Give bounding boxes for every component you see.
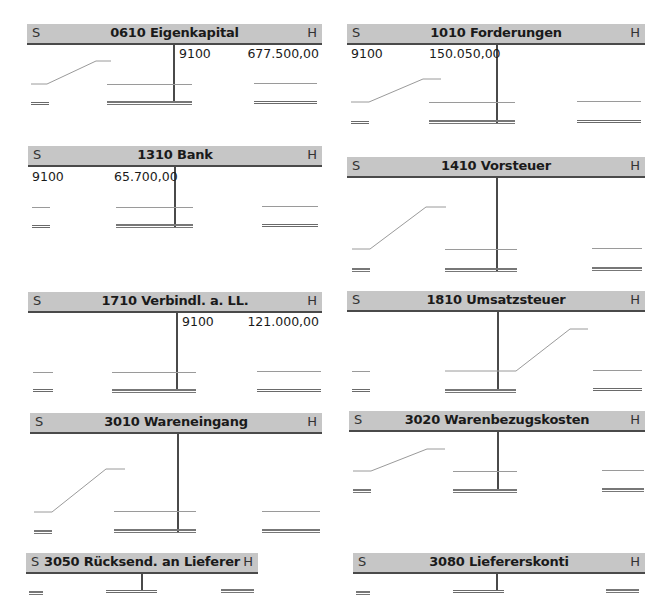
total-double-line	[592, 267, 642, 271]
total-double-line	[254, 101, 317, 104]
account-header: S 3050 Rücksend. an Lieferer H	[26, 553, 258, 574]
account-title: 3050 Rücksend. an Lieferer	[26, 554, 258, 569]
t-account-3020: S 3020 Warenbezugskosten H	[349, 411, 645, 496]
sum-line	[32, 207, 50, 208]
sum-line	[445, 249, 517, 250]
total-double-line	[221, 589, 254, 593]
closing-diagonal-line	[351, 78, 431, 103]
credit-label: H	[307, 25, 317, 40]
sum-line	[429, 102, 515, 103]
t-account-3050: S 3050 Rücksend. an Lieferer H	[26, 553, 258, 598]
credit-amount[interactable]: 121.000,00	[247, 314, 319, 329]
total-double-line	[107, 101, 192, 105]
account-header: S 1410 Vorsteuer H	[347, 157, 645, 178]
debit-contra-account[interactable]: 9100	[351, 46, 383, 61]
total-double-line	[262, 529, 320, 533]
t-account-divider	[496, 178, 498, 271]
sum-line	[453, 471, 517, 472]
t-account-1810: S 1810 Umsatzsteuer H	[347, 291, 645, 391]
closing-diagonal-line	[34, 468, 129, 513]
total-double-line	[114, 529, 196, 533]
t-account-0610: S 0610 Eigenkapital H 9100 677.500,00	[27, 24, 322, 114]
total-double-line	[33, 389, 53, 392]
account-title: 1810 Umsatzsteuer	[347, 292, 645, 307]
credit-label: H	[307, 147, 317, 162]
sum-line	[254, 83, 317, 84]
total-double-line	[593, 388, 642, 391]
total-double-line	[112, 389, 196, 393]
closing-diagonal-line	[352, 206, 447, 251]
sum-line	[107, 84, 192, 85]
sum-line	[577, 101, 641, 102]
credit-amount[interactable]: 677.500,00	[247, 46, 319, 61]
credit-contra-account[interactable]: 9100	[179, 46, 211, 61]
t-account-1310: S 1310 Bank H 9100 65.700,00	[28, 146, 322, 236]
debit-amount[interactable]: 65.700,00	[114, 169, 178, 184]
account-title: 3020 Warenbezugskosten	[349, 412, 645, 427]
total-double-line	[453, 489, 517, 493]
sum-line	[33, 372, 53, 373]
total-double-line	[32, 225, 50, 228]
total-double-line	[257, 389, 321, 392]
account-title: 3010 Wareneingang	[30, 414, 322, 429]
total-double-line	[445, 268, 517, 272]
sum-line	[116, 207, 193, 208]
sum-line	[262, 206, 318, 207]
account-title: 1710 Verbindl. a. LL.	[28, 293, 322, 308]
total-double-line	[106, 590, 157, 593]
t-account-3010: S 3010 Wareneingang H	[30, 413, 322, 538]
credit-label: H	[630, 25, 640, 40]
t-account-1010: S 1010 Forderungen H 9100 150.050,00	[347, 24, 645, 124]
credit-label: H	[630, 412, 640, 427]
debit-contra-account[interactable]: 9100	[32, 169, 64, 184]
total-double-line	[352, 268, 370, 272]
sum-line	[114, 511, 196, 512]
closing-diagonal-line	[445, 328, 620, 373]
total-double-line	[31, 102, 49, 105]
t-account-1710: S 1710 Verbindl. a. LL. H 9100 121.000,0…	[28, 292, 322, 392]
total-double-line	[445, 389, 516, 393]
t-account-divider	[496, 574, 498, 591]
t-account-divider	[141, 574, 143, 591]
account-header: S 0610 Eigenkapital H	[27, 24, 322, 45]
account-header: S 1010 Forderungen H	[347, 24, 645, 45]
sum-line	[593, 370, 642, 371]
debit-amount[interactable]: 150.050,00	[429, 46, 501, 61]
account-header: S 3010 Wareneingang H	[30, 413, 322, 434]
account-header: S 1710 Verbindl. a. LL. H	[28, 292, 322, 313]
account-header: S 3020 Warenbezugskosten H	[349, 411, 645, 432]
closing-diagonal-line	[31, 60, 106, 85]
sum-line	[592, 248, 642, 249]
sum-line	[602, 470, 644, 471]
credit-label: H	[307, 414, 317, 429]
credit-contra-account[interactable]: 9100	[182, 314, 214, 329]
total-double-line	[577, 120, 641, 123]
t-account-divider	[497, 432, 499, 490]
t-account-divider	[176, 313, 178, 391]
sum-line	[262, 511, 320, 512]
credit-label: H	[307, 293, 317, 308]
account-title: 1410 Vorsteuer	[347, 158, 645, 173]
total-double-line	[262, 224, 318, 227]
account-title: 1010 Forderungen	[347, 25, 645, 40]
total-double-line	[356, 591, 370, 595]
t-account-1410: S 1410 Vorsteuer H	[347, 157, 645, 272]
sum-line	[112, 372, 196, 373]
total-double-line	[34, 530, 52, 534]
total-double-line	[429, 120, 515, 124]
closing-diagonal-line	[353, 448, 448, 473]
account-header: S 1310 Bank H	[28, 146, 322, 167]
credit-label: H	[630, 554, 640, 569]
credit-label: H	[243, 554, 253, 569]
account-header: S 3080 Liefererskonti H	[353, 553, 645, 574]
credit-label: H	[630, 158, 640, 173]
total-double-line	[116, 224, 193, 228]
account-title: 0610 Eigenkapital	[27, 25, 322, 40]
total-double-line	[453, 590, 504, 593]
total-double-line	[353, 489, 371, 493]
account-header: S 1810 Umsatzsteuer H	[347, 291, 645, 312]
t-account-3080: S 3080 Liefererskonti H	[353, 553, 645, 598]
total-double-line	[352, 389, 370, 392]
credit-label: H	[630, 292, 640, 307]
total-double-line	[351, 121, 369, 124]
